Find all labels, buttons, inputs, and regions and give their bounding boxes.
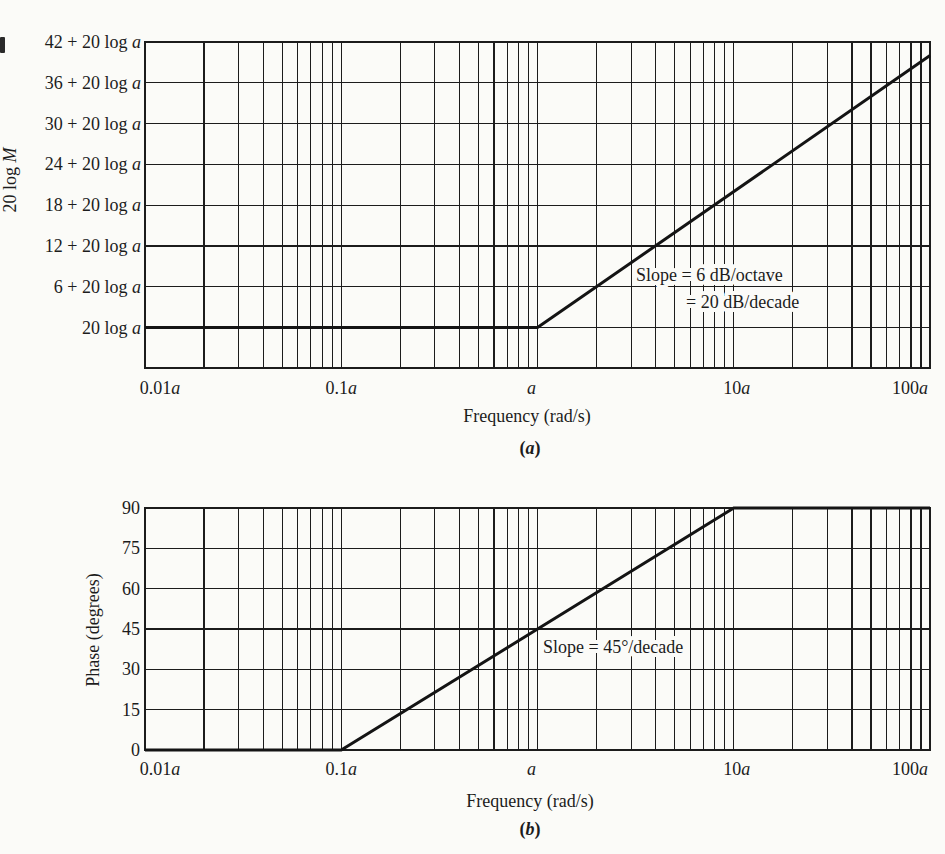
y-tick-label: 18 + 20 log a	[45, 195, 141, 215]
chart-caption: (a)	[520, 438, 541, 459]
y-tick-label: 45	[122, 619, 140, 639]
bode-phase-plot-group: 90756045301500.01a0.1aa10a100aPhase (deg…	[83, 498, 930, 840]
y-tick-label: 20 log a	[82, 318, 141, 338]
x-tick-label: 0.01a	[140, 378, 181, 398]
y-tick-label: 30	[122, 659, 140, 679]
x-tick-label: 10a	[723, 759, 750, 779]
y-tick-label: 6 + 20 log a	[54, 277, 141, 297]
y-tick-label: 0	[131, 740, 140, 760]
bode-plot-figure: 42 + 20 log a36 + 20 log a30 + 20 log a2…	[0, 0, 945, 854]
y-axis-title: 20 log M	[0, 146, 20, 212]
y-tick-label: 15	[122, 700, 140, 720]
slope-annotation: Slope = 45°/decade	[543, 637, 683, 657]
y-tick-label: 90	[122, 498, 140, 518]
slope-annotation: Slope = 6 dB/octave	[636, 265, 783, 285]
y-axis-title: Phase (degrees)	[83, 573, 104, 686]
x-tick-label: a	[527, 378, 536, 398]
bode-magnitude-plot-group: 42 + 20 log a36 + 20 log a30 + 20 log a2…	[0, 32, 930, 459]
x-tick-label: a	[527, 759, 536, 779]
x-tick-label: 100a	[892, 759, 928, 779]
y-tick-label: 60	[122, 579, 140, 599]
y-tick-label: 30 + 20 log a	[45, 114, 141, 134]
x-tick-label: 0.01a	[140, 759, 181, 779]
x-tick-label: 100a	[892, 378, 928, 398]
figure-canvas: 42 + 20 log a36 + 20 log a30 + 20 log a2…	[0, 0, 945, 854]
x-tick-label: 0.1a	[326, 378, 358, 398]
x-axis-title: Frequency (rad/s)	[466, 791, 593, 812]
x-tick-label: 0.1a	[326, 759, 358, 779]
x-tick-label: 10a	[723, 378, 750, 398]
y-tick-label: 36 + 20 log a	[45, 73, 141, 93]
y-tick-label: 75	[122, 538, 140, 558]
slope-annotation: = 20 dB/decade	[686, 292, 799, 312]
grid-bode-magnitude-plot	[145, 42, 930, 368]
y-tick-label: 12 + 20 log a	[45, 236, 141, 256]
x-axis-title: Frequency (rad/s)	[463, 406, 590, 427]
y-tick-label: 42 + 20 log a	[45, 32, 141, 52]
y-tick-label: 24 + 20 log a	[45, 154, 141, 174]
scan-artifact	[0, 37, 5, 53]
chart-caption: (b)	[520, 819, 541, 840]
